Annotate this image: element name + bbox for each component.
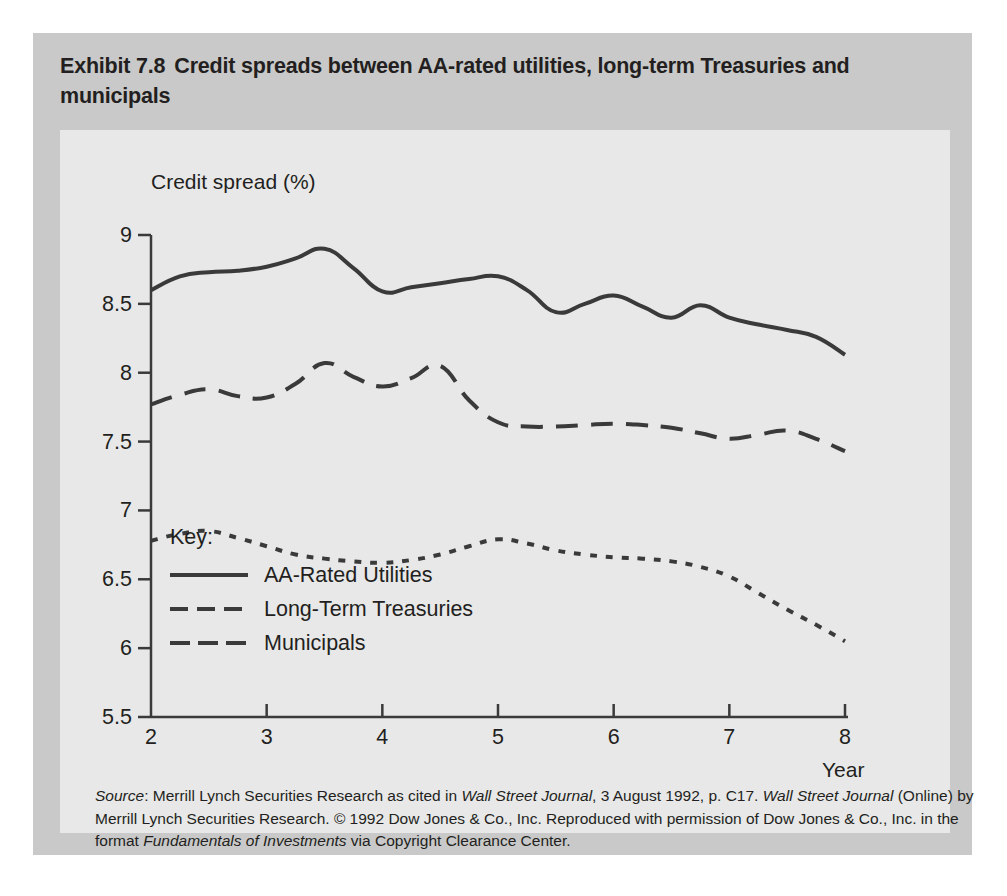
legend-item: AA-Rated Utilities — [170, 558, 473, 592]
x-axis-tick-label: 8 — [825, 725, 865, 750]
source-wsj-1: Wall Street Journal — [461, 787, 592, 804]
legend-item: Long-Term Treasuries — [170, 592, 473, 626]
y-axis-ticks — [138, 235, 151, 717]
y-axis-tick-label: 8 — [74, 360, 132, 385]
legend-item: Municipals — [170, 626, 473, 660]
legend-title: Key: — [170, 525, 473, 550]
exhibit-number: Exhibit 7.8 — [60, 54, 165, 78]
x-axis-tick-label: 6 — [594, 725, 634, 750]
source-line3-b: via Copyright Clearance Center. — [347, 832, 571, 849]
x-axis-tick-label: 3 — [247, 725, 287, 750]
y-axis-tick-label: 6 — [74, 636, 132, 661]
y-axis-tick-label: 7.5 — [74, 429, 132, 454]
y-axis-tick-label: 9 — [74, 223, 132, 248]
exhibit-title-text: Credit spreads between AA-rated utilitie… — [60, 54, 850, 108]
exhibit-frame: Exhibit 7.8Credit spreads between AA-rat… — [33, 33, 972, 855]
y-axis-tick-label: 5.5 — [74, 705, 132, 730]
source-note: Source: Merrill Lynch Securities Researc… — [95, 785, 975, 853]
series-line-long-term-treasuries — [151, 363, 845, 451]
legend-rows: AA-Rated UtilitiesLong-Term TreasuriesMu… — [170, 558, 473, 660]
source-book-title: Fundamentals of Investments — [143, 832, 346, 849]
source-wsj-2: Wall Street Journal — [763, 787, 894, 804]
x-axis-tick-label: 4 — [362, 725, 402, 750]
page-title: Exhibit 7.8Credit spreads between AA-rat… — [60, 51, 940, 111]
legend-label: Long-Term Treasuries — [264, 597, 473, 622]
y-axis-tick-label: 6.5 — [74, 567, 132, 592]
legend-label: Municipals — [264, 631, 366, 656]
y-axis-tick-label: 8.5 — [74, 291, 132, 316]
chart-legend: Key: AA-Rated UtilitiesLong-Term Treasur… — [170, 525, 473, 660]
source-label: Source — [95, 787, 144, 804]
series-line-aa-rated-utilities — [151, 248, 845, 354]
legend-swatch-dashed — [170, 602, 248, 616]
x-axis-ticks — [267, 704, 845, 717]
x-axis-tick-label: 5 — [478, 725, 518, 750]
source-line1-b: , 3 August 1992, p. C17. — [592, 787, 763, 804]
legend-label: AA-Rated Utilities — [264, 563, 432, 588]
legend-swatch-solid — [170, 568, 248, 582]
source-line1-a: : Merrill Lynch Securities Research as c… — [144, 787, 461, 804]
chart-panel: Credit spread (%) 5.566.577.588.59 23456… — [60, 130, 950, 833]
x-axis-tick-label: 7 — [709, 725, 749, 750]
x-axis-tick-label: 2 — [131, 725, 171, 750]
y-axis-tick-label: 7 — [74, 498, 132, 523]
x-axis-label: Year — [822, 758, 864, 782]
legend-swatch-dashed — [170, 636, 248, 650]
